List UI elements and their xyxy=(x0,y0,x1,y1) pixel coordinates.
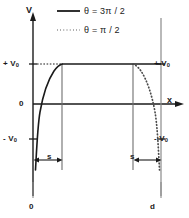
series-dotted-curve xyxy=(133,64,160,170)
x-axis-arrowhead xyxy=(175,101,184,107)
y-tick-label-minus-v0-left: - V0 xyxy=(3,135,17,144)
dimension-label-sheath-left: s xyxy=(47,153,52,161)
potential-vs-position-figure: V x + V0 0 - V0 + V0 - V0 0 d θ = 3π / 2… xyxy=(0,0,189,218)
x-tick-label-d: d xyxy=(150,203,155,211)
legend-label-theta-3pi-2: θ = 3π / 2 xyxy=(84,7,125,16)
y-tick-label-zero: 0 xyxy=(19,100,24,108)
y-axis-label: V xyxy=(26,6,32,15)
x-tick-label-origin: 0 xyxy=(29,203,34,211)
legend-label-theta-pi-2: θ = π / 2 xyxy=(84,26,120,35)
x-axis-label: x xyxy=(167,96,172,105)
dimension-label-sheath-right: s xyxy=(130,153,135,161)
y-tick-label-plus-v0-left: + V0 xyxy=(3,60,19,69)
y-tick-label-minus-v0-right: - V0 xyxy=(154,135,168,144)
y-tick-label-plus-v0-right: + V0 xyxy=(154,60,170,69)
